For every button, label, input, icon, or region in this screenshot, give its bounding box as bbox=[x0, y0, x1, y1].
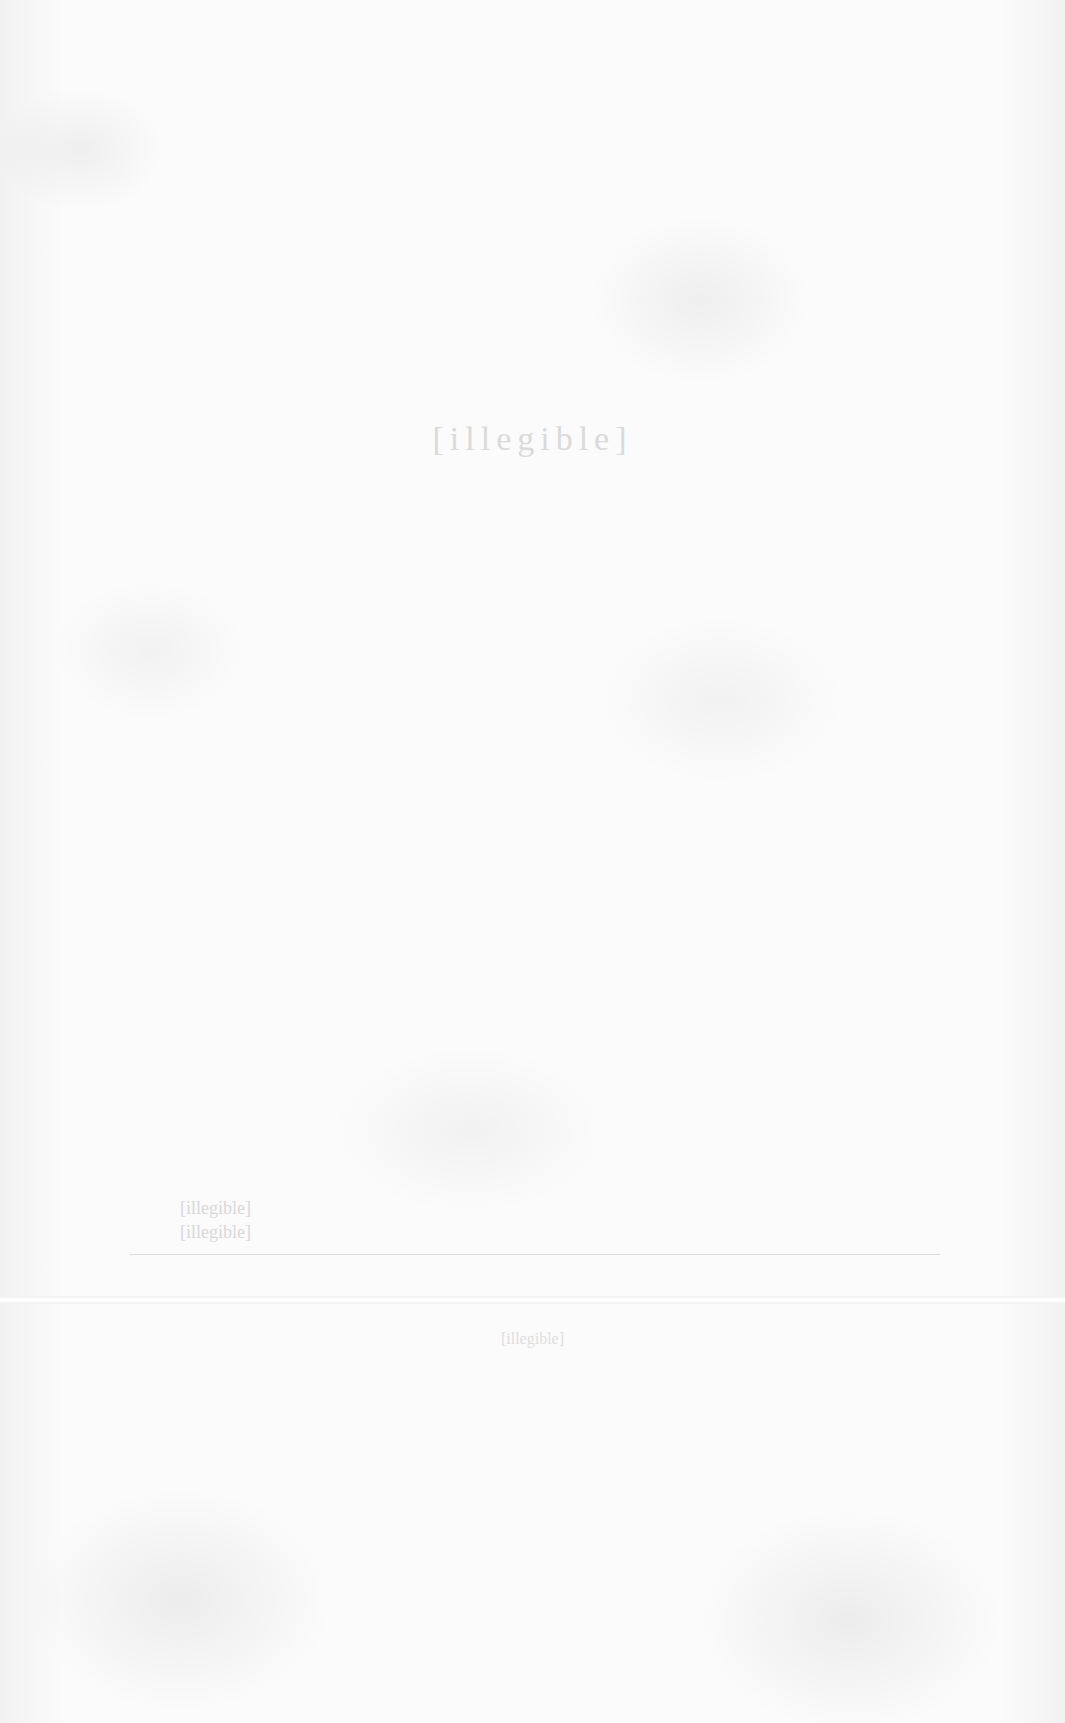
horizontal-rule bbox=[130, 1254, 940, 1255]
body-line: [illegible] bbox=[180, 1220, 885, 1244]
footer-text: [illegible] bbox=[180, 1330, 885, 1348]
body-line: [illegible] bbox=[180, 1196, 885, 1220]
paper-texture bbox=[0, 0, 1065, 1723]
body-text: [illegible] [illegible] bbox=[180, 1196, 885, 1244]
chapter-heading: [illegible] bbox=[0, 420, 1065, 458]
page-separator bbox=[0, 1296, 1065, 1304]
